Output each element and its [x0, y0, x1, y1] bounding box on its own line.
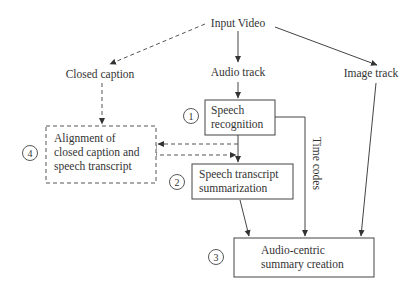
- svg-text:2: 2: [175, 177, 180, 188]
- speech-recognition-node: Speech recognition: [205, 100, 275, 135]
- speech-recognition-line-1: Speech: [211, 104, 244, 117]
- summarization-node: Speech transcript summarization: [192, 164, 293, 199]
- diagram-canvas: Time codes Input Video Closed caption Au…: [0, 0, 416, 294]
- step-2-badge: 2: [170, 175, 185, 190]
- edge-image-track-to-summary: [361, 83, 376, 236]
- alignment-line-2: closed caption and: [54, 146, 140, 159]
- step-4-badge: 4: [23, 146, 38, 161]
- edge-summarization-to-summary: [240, 200, 249, 236]
- speech-recognition-line-2: recognition: [211, 118, 264, 131]
- summarization-line-2: summarization: [199, 182, 268, 194]
- edge-input-to-image-track: [275, 27, 377, 65]
- step-1-badge: 1: [184, 109, 199, 124]
- edge-input-to-closed-caption: [110, 24, 205, 64]
- svg-text:1: 1: [189, 111, 194, 122]
- edge-alignment-to-summarization: [156, 145, 236, 155]
- step-3-badge: 3: [209, 250, 224, 265]
- image-track-label: Image track: [344, 67, 399, 80]
- summarization-line-1: Speech transcript: [199, 168, 279, 181]
- time-codes-label: Time codes: [311, 137, 323, 190]
- svg-text:4: 4: [28, 148, 33, 159]
- alignment-line-3: speech transcript: [54, 160, 132, 173]
- alignment-line-1: Alignment of: [54, 132, 116, 145]
- svg-text:3: 3: [214, 252, 219, 263]
- closed-caption-label: Closed caption: [66, 68, 135, 81]
- alignment-node: Alignment of closed caption and speech t…: [46, 126, 156, 183]
- summary-creation-node: Audio-centric summary creation: [234, 238, 374, 277]
- summary-creation-line-1: Audio-centric: [261, 244, 325, 256]
- audio-track-label: Audio track: [211, 66, 266, 78]
- input-video-label: Input Video: [211, 17, 266, 30]
- summary-creation-line-2: summary creation: [261, 258, 344, 271]
